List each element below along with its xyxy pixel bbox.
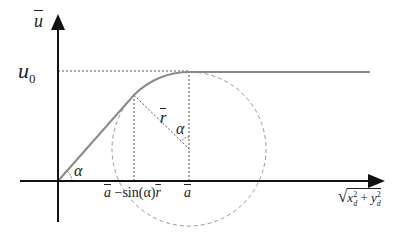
x-tick-right-label: a <box>184 186 191 200</box>
r-bar-label: r <box>160 110 166 126</box>
y-axis-arrow-icon <box>51 14 65 30</box>
alpha-center-label: α <box>176 121 184 137</box>
x-tick-left-label: a −sin(α)r <box>104 186 161 200</box>
x-axis-label: √x2d + y2d <box>338 188 381 208</box>
velocity-curve <box>58 72 370 181</box>
u0-sub: 0 <box>29 71 36 86</box>
u0-label: u0 <box>18 60 36 85</box>
u0-main: u <box>18 58 29 83</box>
y-axis-label: u <box>34 12 43 30</box>
x-axis-arrow-icon <box>368 174 385 188</box>
alpha-origin-label: α <box>74 163 82 179</box>
alpha-arc-origin <box>67 171 72 181</box>
alpha-arc-center <box>181 137 189 141</box>
